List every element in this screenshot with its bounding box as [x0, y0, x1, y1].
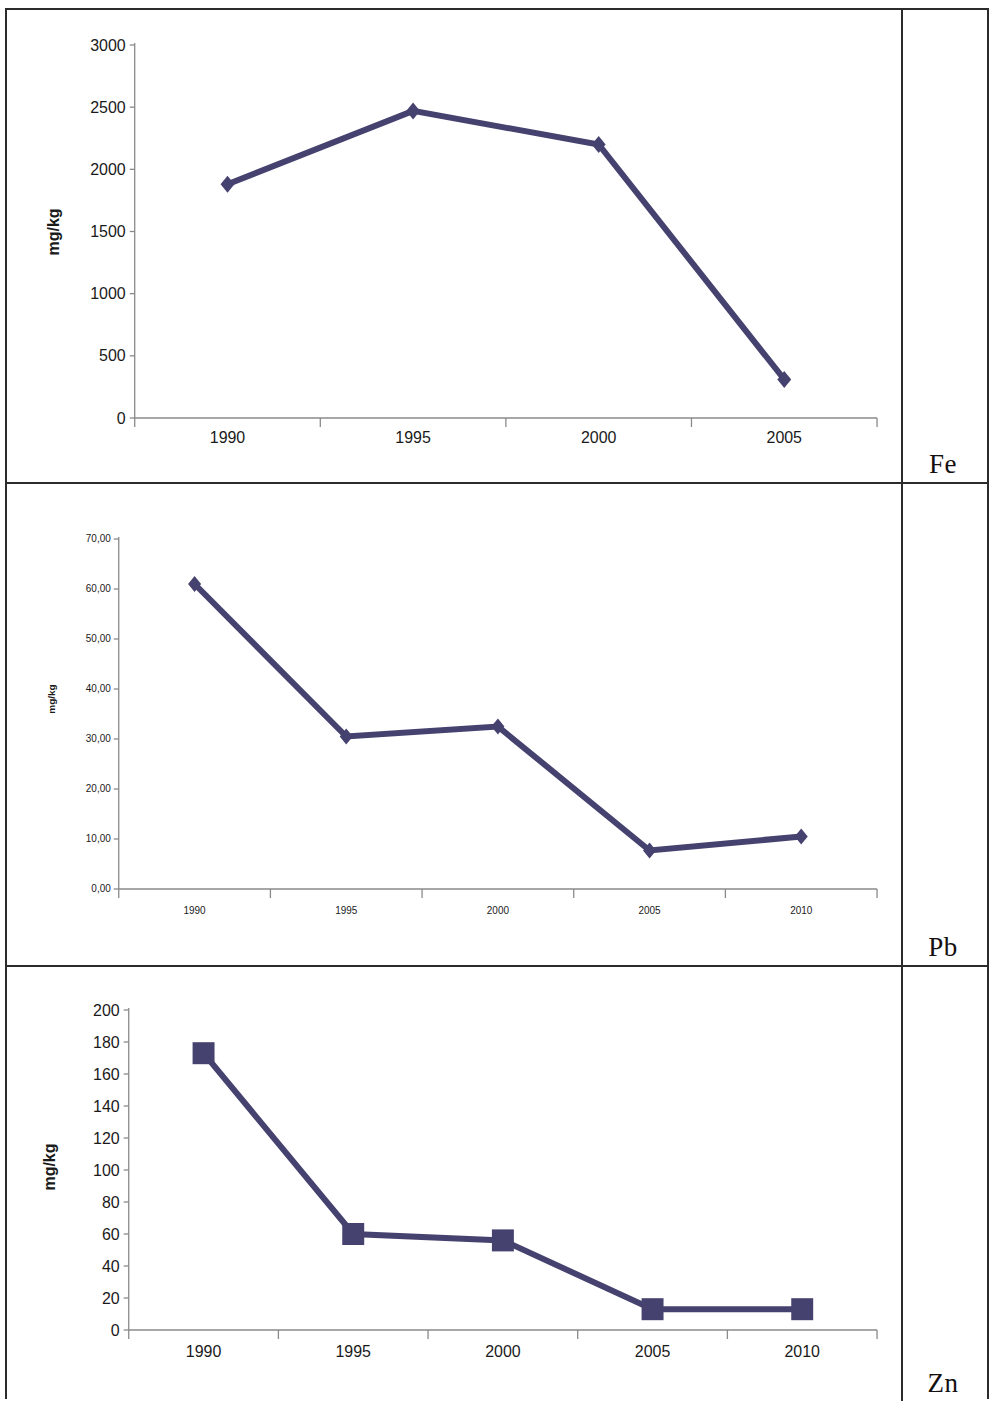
data-point-marker — [221, 176, 235, 193]
y-axis-title: mg/kg — [45, 208, 62, 255]
chart-cell-zn: 0204060801001201401601802001990199520002… — [7, 967, 901, 1401]
x-axis-tick-label: 2005 — [767, 429, 803, 446]
chart-cell-pb: 0,0010,0020,0030,0040,0050,0060,0070,001… — [7, 484, 901, 965]
y-axis-tick-label: 0 — [111, 1322, 120, 1339]
y-axis-tick-label: 180 — [93, 1034, 120, 1051]
line-chart-fe: 0500100015002000250030001990199520002005… — [7, 10, 901, 482]
x-axis-tick-label: 1995 — [395, 429, 431, 446]
table-row: 0,0010,0020,0030,0040,0050,0060,0070,001… — [7, 484, 987, 967]
y-axis-tick-label: 60,00 — [86, 583, 111, 594]
chart-cell-fe: 0500100015002000250030001990199520002005… — [7, 10, 901, 482]
y-axis-tick-label: 0 — [117, 410, 126, 427]
figure-table: 0500100015002000250030001990199520002005… — [5, 8, 989, 1399]
y-axis-tick-label: 3000 — [90, 37, 126, 54]
table-row: 0500100015002000250030001990199520002005… — [7, 10, 987, 484]
y-axis-tick-label: 120 — [93, 1130, 120, 1147]
x-axis-tick-label: 2000 — [485, 1343, 521, 1360]
y-axis-tick-label: 70,00 — [86, 533, 111, 544]
y-axis-title: mg/kg — [41, 1143, 58, 1190]
table-row: 0204060801001201401601802001990199520002… — [7, 967, 987, 1401]
data-point-marker — [342, 1223, 364, 1245]
y-axis-tick-label: 1500 — [90, 223, 126, 240]
y-axis-tick-label: 20 — [102, 1290, 120, 1307]
x-axis-tick-label: 2005 — [638, 905, 661, 916]
y-axis-tick-label: 20,00 — [86, 783, 111, 794]
x-axis-tick-label: 2010 — [790, 905, 813, 916]
x-axis-tick-label: 2005 — [635, 1343, 671, 1360]
element-label-fe: Fe — [903, 450, 983, 478]
data-point-marker — [492, 1229, 514, 1251]
y-axis-tick-label: 80 — [102, 1194, 120, 1211]
y-axis-title: mg/kg — [46, 684, 57, 713]
series-line — [204, 1053, 803, 1309]
y-axis-tick-label: 100 — [93, 1162, 120, 1179]
x-axis-tick-label: 1995 — [335, 905, 358, 916]
x-axis-tick-label: 2010 — [784, 1343, 820, 1360]
label-cell-fe: Fe — [901, 10, 987, 482]
element-label-pb: Pb — [903, 933, 983, 961]
y-axis-tick-label: 160 — [93, 1066, 120, 1083]
y-axis-tick-label: 40 — [102, 1258, 120, 1275]
y-axis-tick-label: 30,00 — [86, 733, 111, 744]
element-label-zn: Zn — [903, 1369, 983, 1397]
line-chart-zn: 0204060801001201401601802001990199520002… — [7, 967, 901, 1401]
series-line — [228, 111, 785, 380]
y-axis-tick-label: 1000 — [90, 285, 126, 302]
y-axis-tick-label: 2500 — [90, 99, 126, 116]
data-point-marker — [193, 1042, 215, 1064]
label-cell-pb: Pb — [901, 484, 987, 965]
y-axis-tick-label: 2000 — [90, 161, 126, 178]
y-axis-tick-label: 0,00 — [91, 883, 111, 894]
y-axis-tick-label: 140 — [93, 1098, 120, 1115]
y-axis-tick-label: 40,00 — [86, 683, 111, 694]
y-axis-tick-label: 500 — [99, 347, 126, 364]
data-point-marker — [791, 1298, 813, 1320]
data-point-marker — [642, 1298, 664, 1320]
x-axis-tick-label: 2000 — [487, 905, 510, 916]
label-cell-zn: Zn — [901, 967, 987, 1401]
data-point-marker — [406, 102, 420, 119]
x-axis-tick-label: 1995 — [335, 1343, 371, 1360]
data-point-marker — [795, 829, 808, 845]
y-axis-tick-label: 200 — [93, 1002, 120, 1019]
x-axis-tick-label: 1990 — [186, 1343, 222, 1360]
y-axis-tick-label: 50,00 — [86, 633, 111, 644]
x-axis-tick-label: 1990 — [183, 905, 206, 916]
y-axis-tick-label: 10,00 — [86, 833, 111, 844]
series-line — [195, 584, 802, 851]
x-axis-tick-label: 2000 — [581, 429, 617, 446]
x-axis-tick-label: 1990 — [210, 429, 246, 446]
line-chart-pb: 0,0010,0020,0030,0040,0050,0060,0070,001… — [7, 484, 901, 965]
y-axis-tick-label: 60 — [102, 1226, 120, 1243]
